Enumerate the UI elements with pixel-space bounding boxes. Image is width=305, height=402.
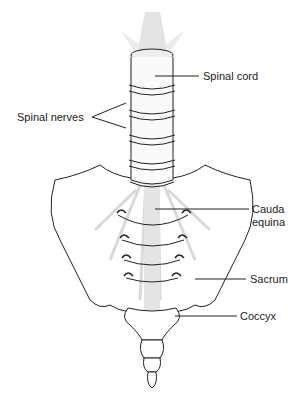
cauda-equina-core [144, 180, 160, 315]
leader-spinal-nerves-upper [92, 103, 126, 117]
label-sacrum: Sacrum [250, 273, 288, 285]
label-cauda-equina-line2: equina [252, 216, 285, 228]
leader-spinal-nerves-lower [92, 117, 126, 128]
label-spinal-cord: Spinal cord [203, 70, 258, 82]
label-coccyx: Coccyx [240, 310, 276, 322]
label-spinal-nerves: Spinal nerves [17, 111, 84, 123]
vertebral-column [129, 49, 175, 187]
coccyx [124, 308, 179, 388]
spine-illustration [0, 0, 305, 402]
label-cauda-equina-line1: Cauda [252, 203, 284, 215]
